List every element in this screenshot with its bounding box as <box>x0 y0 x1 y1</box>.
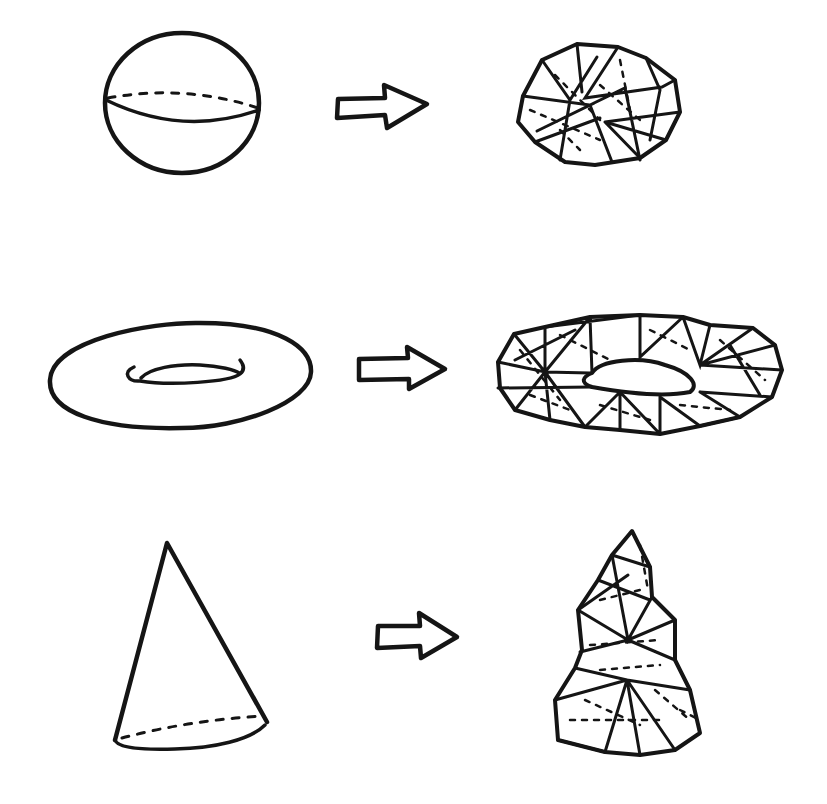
sphere-mesh <box>518 44 680 165</box>
cone-mesh <box>555 531 700 755</box>
cone-shape <box>115 543 267 749</box>
arrow-icon <box>377 613 457 658</box>
arrow-icon <box>359 347 445 389</box>
diagram-canvas <box>0 0 827 804</box>
torus-mesh <box>498 315 782 434</box>
sphere-shape <box>105 33 259 173</box>
torus-shape <box>50 323 311 428</box>
row-sphere <box>105 33 680 173</box>
arrow-icon <box>337 85 427 128</box>
row-cone <box>115 531 700 755</box>
row-torus <box>50 315 782 434</box>
